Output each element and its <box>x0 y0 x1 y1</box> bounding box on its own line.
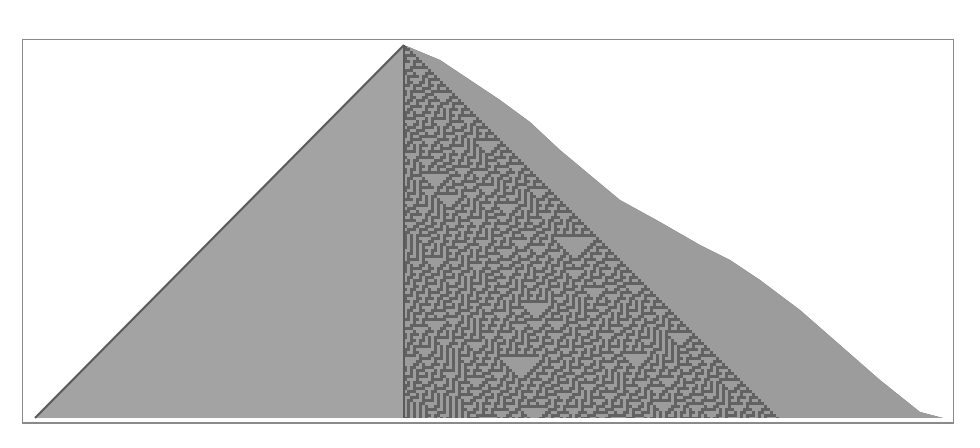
cellular-automaton-canvas <box>23 40 953 422</box>
figure-frame <box>22 39 954 424</box>
